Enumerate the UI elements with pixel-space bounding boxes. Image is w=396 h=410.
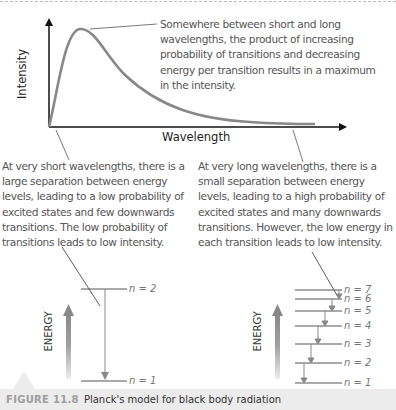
y-axis-label: Intensity: [15, 44, 29, 104]
left-level-n1: n = 1: [129, 375, 156, 386]
right-energy-label: ENERGY: [252, 312, 263, 352]
right-level-n3: n = 3: [344, 338, 371, 349]
short-wavelength-annotation: At very short wavelengths, there is a la…: [2, 159, 192, 250]
right-energy-diagram: [272, 290, 342, 383]
left-level-n2: n = 2: [129, 283, 156, 294]
figure-caption: FIGURE 11.8Planck's model for black body…: [0, 389, 396, 410]
right-level-n5: n = 5: [344, 305, 371, 316]
right-level-n6: n = 6: [344, 293, 371, 304]
right-level-n4: n = 4: [344, 320, 371, 331]
peak-annotation: Somewhere between short and long wavelen…: [160, 17, 385, 93]
left-energy-diagram: [63, 289, 127, 381]
x-axis-label: Wavelength: [162, 130, 230, 144]
right-level-n2: n = 2: [344, 357, 371, 368]
right-level-n1: n = 1: [344, 377, 371, 388]
figure-label: FIGURE 11.8: [6, 394, 79, 405]
left-energy-label: ENERGY: [43, 312, 54, 352]
long-wavelength-annotation: At very long wavelengths, there is a sma…: [198, 159, 396, 250]
figure-caption-text: Planck's model for black body radiation: [84, 394, 281, 405]
